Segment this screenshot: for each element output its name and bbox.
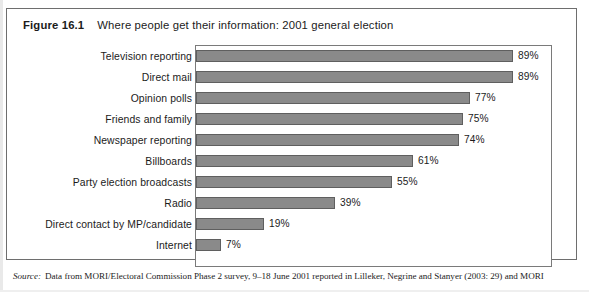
bar-track: 89% [196,50,552,62]
bar [196,218,264,230]
bar [196,239,221,251]
chart-row: Party election broadcasts55% [13,172,584,193]
bar-value-label: 7% [226,238,241,252]
bar-value-label: 39% [340,196,361,210]
figure-number: Figure 16.1 [23,19,84,31]
figure-box: Figure 16.1Where people get their inform… [6,8,577,260]
page-title: Where people get their information: 2001… [97,19,393,31]
bar-value-label: 19% [269,217,290,231]
bar [196,50,513,62]
bar-track: 89% [196,71,552,83]
chart-row: Friends and family75% [13,109,584,130]
bar-value-label: 75% [468,112,489,126]
category-label: Television reporting [0,51,192,63]
bar-track: 7% [196,239,552,251]
chart-row: Television reporting89% [13,46,584,67]
category-label: Direct contact by MP/candidate [0,219,192,231]
bar-track: 75% [196,113,552,125]
bar [196,176,392,188]
bar [196,113,463,125]
category-label: Newspaper reporting [0,135,192,147]
bar-track: 77% [196,92,552,104]
source-text: Data from MORI/Electoral Commission Phas… [45,271,544,281]
bar-value-label: 61% [418,154,439,168]
bar-track: 19% [196,218,552,230]
figure-caption: Figure 16.1Where people get their inform… [23,19,393,31]
category-label: Opinion polls [0,93,192,105]
source-label: Source: [13,271,41,281]
bar-value-label: 89% [518,70,539,84]
bar-track: 74% [196,134,552,146]
bar [196,197,335,209]
category-label: Billboards [0,156,192,168]
bar [196,71,513,83]
category-label: Direct mail [0,72,192,84]
category-label: Radio [0,198,192,210]
bar [196,134,459,146]
bar-value-label: 77% [475,91,496,105]
category-label: Internet [0,240,192,252]
chart-row: Newspaper reporting74% [13,130,584,151]
bar-track: 61% [196,155,552,167]
chart-row: Opinion polls77% [13,88,584,109]
chart-row: Billboards61% [13,151,584,172]
bar [196,92,470,104]
bar-value-label: 89% [518,49,539,63]
bar-chart: Television reporting89%Direct mail89%Opi… [13,45,584,267]
bar-track: 55% [196,176,552,188]
category-label: Friends and family [0,114,192,126]
chart-row: Internet7% [13,235,584,256]
bar-track: 39% [196,197,552,209]
chart-rows: Television reporting89%Direct mail89%Opi… [13,45,584,267]
chart-row: Direct mail89% [13,67,584,88]
chart-row: Radio39% [13,193,584,214]
category-label: Party election broadcasts [0,177,192,189]
source-note: Source:Data from MORI/Electoral Commissi… [13,271,588,282]
bar-value-label: 74% [464,133,485,147]
bar [196,155,413,167]
bar-value-label: 55% [397,175,418,189]
chart-row: Direct contact by MP/candidate19% [13,214,584,235]
